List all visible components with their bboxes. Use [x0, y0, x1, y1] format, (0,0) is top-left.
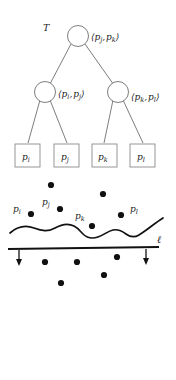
point-dot [48, 182, 54, 188]
tree-leaf-boxes: pi pj pk pl [15, 144, 155, 167]
arrow-head-right [143, 258, 149, 265]
tree-internal-node-right[interactable] [108, 82, 129, 103]
point-label-pl: pl [130, 204, 138, 216]
edge-left-leaf1 [28, 100, 40, 143]
arrow-head-left [16, 259, 22, 266]
point-dot [42, 259, 48, 265]
point-dot-pl [118, 212, 124, 218]
tree-root-label: ⟨pj, pk⟩ [91, 32, 119, 44]
direction-arrows [16, 249, 149, 266]
point-label-pj: pj [42, 197, 50, 209]
point-dot [114, 254, 120, 260]
edge-right-leaf3 [104, 100, 113, 143]
tree-diagram: T ⟨pj, pk⟩ ⟨pi, pj⟩ ⟨pk, pl⟩ [15, 22, 159, 167]
edge-right-leaf4 [123, 100, 143, 143]
edge-root-left [51, 44, 72, 83]
point-dot [58, 280, 64, 286]
tree-internal-left-label: ⟨pi, pj⟩ [58, 89, 84, 101]
figure-canvas: T ⟨pj, pk⟩ ⟨pi, pj⟩ ⟨pk, pl⟩ [0, 0, 176, 380]
point-label-pi: pi [13, 204, 21, 216]
tree-name-label: T [43, 22, 50, 33]
line-label-ell: ℓ [157, 234, 161, 245]
point-dot [74, 259, 80, 265]
point-dot-pi [28, 211, 34, 217]
point-dot-pk [89, 223, 95, 229]
edge-root-right [85, 44, 113, 83]
tree-internal-right-label: ⟨pk, pl⟩ [131, 92, 159, 104]
edge-left-leaf2 [50, 100, 67, 143]
point-dot-pj [57, 206, 63, 212]
wavy-separator-curve [10, 218, 163, 238]
tree-root-node[interactable] [68, 26, 89, 47]
pointset-diagram: pi pj pk pl ℓ [8, 182, 163, 286]
point-dot [100, 191, 106, 197]
point-dot [101, 272, 107, 278]
tree-internal-node-left[interactable] [35, 82, 56, 103]
separating-line [8, 247, 159, 249]
point-label-pk: pk [75, 211, 85, 223]
